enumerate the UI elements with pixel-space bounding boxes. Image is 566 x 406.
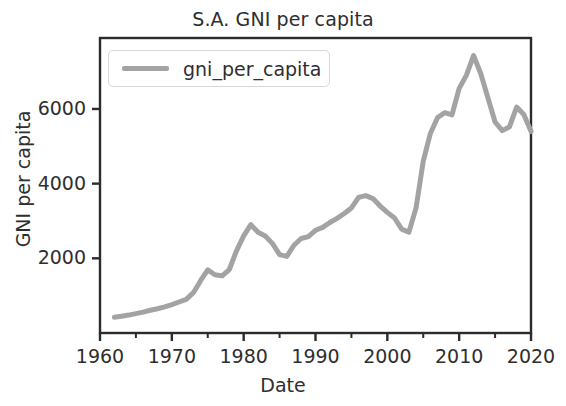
- x-axis-tick-label: 1970: [132, 345, 212, 367]
- y-axis-tick-label: 2000: [2, 246, 86, 268]
- x-axis-tick-label: 1980: [204, 345, 284, 367]
- legend-entry-label: gni_per_capita: [183, 58, 321, 80]
- legend-line-swatch: [122, 66, 169, 71]
- x-axis-tick-label: 1990: [276, 345, 356, 367]
- legend-entry-gni-per-capita: gni_per_capita: [109, 51, 329, 86]
- x-axis-label: Date: [0, 374, 566, 396]
- y-axis-tick-label: 4000: [2, 172, 86, 194]
- x-axis-tick-label: 1960: [60, 345, 140, 367]
- data-line-gni-per-capita: [114, 56, 531, 318]
- y-axis-tick-label: 6000: [2, 97, 86, 119]
- x-axis-tick-label: 2020: [491, 345, 566, 367]
- legend: gni_per_capita: [108, 50, 330, 87]
- x-axis-tick-label: 2000: [347, 345, 427, 367]
- chart-figure: S.A. GNI per capita GNI per capita Date …: [0, 0, 566, 406]
- x-axis-tick-label: 2010: [419, 345, 499, 367]
